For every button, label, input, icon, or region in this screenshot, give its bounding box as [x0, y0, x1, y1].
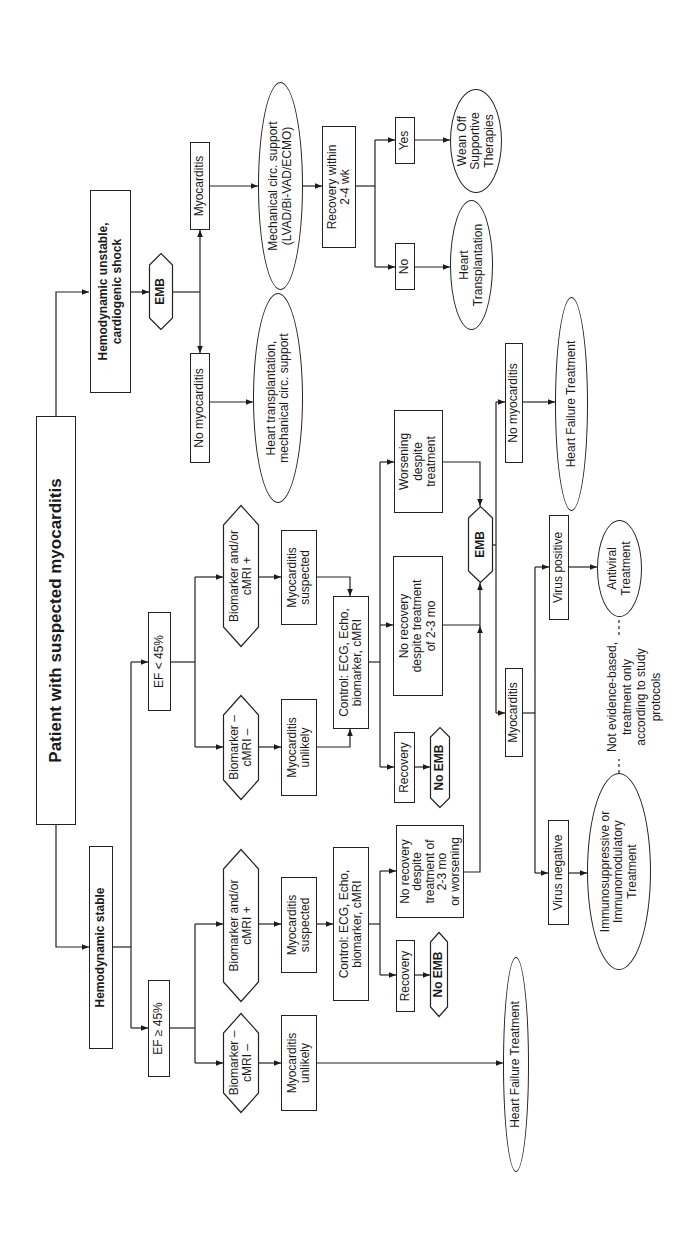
emb-decision-unstable: EMB — [149, 253, 173, 330]
heart-failure-treatment-terminal-lower: Heart Failure Treatment — [503, 957, 529, 1172]
heart-failure-treatment-terminal-upper: Heart Failure Treatment — [555, 297, 588, 511]
no-emb-label: No EMB — [432, 952, 446, 998]
hemodynamic-stable-node: Hemodynamic stable — [89, 846, 113, 1049]
heart-transplantation-terminal: Heart Transplantation — [450, 200, 493, 330]
yes-label: Yes — [398, 131, 412, 151]
biomarker-negative-decision-lt: Biomarker – cMRI – — [223, 695, 259, 800]
no-recovery-node-lt: No recovery despite treatment of 2-3 mo — [393, 556, 443, 696]
myocarditis-suspected-label: Myocarditis suspected — [286, 547, 313, 608]
transplant-or-support-terminal: Heart transplantation, mechanical circ. … — [253, 293, 303, 503]
no-myocarditis-node-result: No myocarditis — [505, 343, 523, 463]
recovery-label: Recovery — [398, 742, 412, 793]
heart-failure-treatment-label: Heart Failure Treatment — [565, 341, 579, 468]
evidence-note: Not evidence-based, treatment only accor… — [605, 617, 663, 777]
biomarker-negative-decision-ge: Biomarker – cMRI – — [223, 1013, 259, 1113]
control-label: Control: ECG, Echo, biomarker, cMRI — [338, 870, 365, 979]
biomarker-positive-label: Biomarker and/or cMRI + — [228, 530, 255, 622]
hemodynamic-stable-label: Hemodynamic stable — [94, 887, 108, 1007]
arrow-root-to-stable — [56, 825, 89, 947]
arrow-suspected-to-control-lt — [317, 577, 350, 596]
ef-lt-45-label: EF < 45% — [153, 635, 167, 688]
myocarditis-node-unstable: Myocarditis — [190, 142, 210, 230]
ef-ge-45-node: EF ≥ 45% — [148, 980, 170, 1077]
no-myocarditis-label: No myocarditis — [507, 363, 521, 442]
recovery-node-ge: Recovery — [396, 940, 415, 1012]
biomarker-negative-label: Biomarker – cMRI – — [228, 1031, 255, 1096]
myocarditis-unlikely-node-ge: Myocarditis unlikely — [281, 1015, 317, 1111]
recovery-check-node: Recovery within 2-4 wk — [322, 126, 356, 248]
antiviral-treatment-label: Antiviral Treatment — [606, 541, 633, 595]
myocarditis-label: Myocarditis — [193, 156, 207, 217]
myocarditis-unlikely-label: Myocarditis unlikely — [286, 717, 313, 778]
arrow-unlikely-to-control-lt — [317, 729, 350, 747]
biomarker-positive-decision-lt: Biomarker and/or cMRI + — [223, 505, 259, 647]
ef-lt-45-node: EF < 45% — [148, 612, 171, 711]
virus-negative-label: Virus negative — [552, 835, 566, 911]
emb-label: EMB — [474, 531, 488, 558]
immuno-treatment-label: Immunosuppressive or Immunomodulatory Tr… — [599, 811, 640, 932]
myocarditis-label: Myocarditis — [507, 682, 521, 743]
no-myocarditis-node-unstable: No myocarditis — [190, 353, 210, 463]
ef-ge-45-label: EF ≥ 45% — [152, 1002, 166, 1055]
mechanical-support-terminal: Mechanical circ. support (LVAD/Bi-VAD/EC… — [258, 82, 303, 290]
no-emb-terminal-lt: No EMB — [430, 727, 450, 808]
transplant-or-support-label: Heart transplantation, mechanical circ. … — [265, 333, 292, 462]
biomarker-negative-label: Biomarker – cMRI – — [228, 715, 255, 780]
virus-negative-node: Virus negative — [548, 820, 569, 925]
mechanical-support-label: Mechanical circ. support (LVAD/Bi-VAD/EC… — [267, 121, 294, 250]
no-emb-terminal-ge: No EMB — [430, 932, 448, 1017]
myocarditis-suspected-node-lt: Myocarditis suspected — [281, 530, 317, 625]
myocarditis-flowchart: Patient with suspected myocarditis Hemod… — [0, 0, 688, 1250]
emb-label: EMB — [154, 278, 168, 305]
no-recovery-node-ge: No recovery despite treatment of 2-3 mo … — [396, 825, 464, 918]
myocarditis-unlikely-node-lt: Myocarditis unlikely — [281, 699, 317, 796]
hemodynamic-unstable-label: Hemodynamic unstable, cardiogenic shock — [97, 222, 124, 360]
control-label: Control: ECG, Echo, biomarker, cMRI — [338, 608, 365, 717]
control-node-lt: Control: ECG, Echo, biomarker, cMRI — [333, 596, 369, 729]
recovery-label: Recovery — [399, 951, 413, 1002]
heart-transplantation-label: Heart Transplantation — [458, 224, 485, 306]
no-myocarditis-label: No myocarditis — [193, 368, 207, 447]
no-label: No — [398, 259, 412, 274]
yes-node: Yes — [395, 117, 415, 164]
myocarditis-suspected-label: Myocarditis suspected — [286, 895, 313, 956]
wean-off-terminal: Wean Off Supportive Therapies — [450, 89, 502, 193]
biomarker-positive-decision-ge: Biomarker and/or cMRI + — [223, 849, 259, 1002]
root-node: Patient with suspected myocarditis — [36, 416, 76, 825]
no-node: No — [395, 243, 415, 290]
biomarker-positive-label: Biomarker and/or cMRI + — [228, 879, 255, 971]
recovery-check-label: Recovery within 2-4 wk — [326, 145, 353, 230]
worsening-node: Worsening despite treatment — [394, 410, 443, 513]
no-emb-label: No EMB — [433, 745, 447, 791]
arrow-root-to-unstable — [56, 292, 89, 416]
immuno-treatment-terminal: Immunosuppressive or Immunomodulatory Tr… — [587, 773, 651, 970]
arrow-worsening-to-emb — [443, 462, 480, 506]
control-node-ge: Control: ECG, Echo, biomarker, cMRI — [333, 847, 369, 1001]
myocarditis-node-result: Myocarditis — [505, 668, 523, 757]
no-recovery-label: No recovery despite treatment of 2-3 mo … — [399, 837, 462, 906]
no-recovery-label: No recovery despite treatment of 2-3 mo — [398, 580, 439, 673]
recovery-node-lt: Recovery — [394, 732, 415, 803]
arrow-no-recovery-ge-to-junction — [464, 626, 480, 872]
antiviral-treatment-terminal: Antiviral Treatment — [597, 520, 642, 617]
hemodynamic-unstable-node: Hemodynamic unstable, cardiogenic shock — [90, 190, 131, 393]
emb-decision-stable: EMB — [468, 506, 493, 583]
heart-failure-treatment-label: Heart Failure Treatment — [509, 1001, 523, 1128]
root-label: Patient with suspected myocarditis — [46, 478, 66, 762]
wean-off-label: Wean Off Supportive Therapies — [456, 112, 497, 169]
myocarditis-suspected-node-ge: Myocarditis suspected — [281, 877, 317, 973]
myocarditis-unlikely-label: Myocarditis unlikely — [286, 1033, 313, 1094]
virus-positive-node: Virus positive — [549, 515, 569, 620]
worsening-label: Worsening despite treatment — [398, 433, 439, 490]
virus-positive-label: Virus positive — [552, 532, 566, 603]
